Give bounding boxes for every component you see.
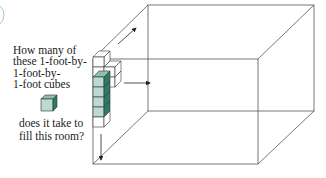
question-line: does it take to xyxy=(19,117,99,130)
arrow-depth-icon xyxy=(118,28,136,44)
question-line: 1-foot cubes xyxy=(13,79,93,90)
question-line: fill this room? xyxy=(19,130,99,143)
section-marker-icon xyxy=(0,3,4,27)
figure: How many of these 1-foot-by- 1-foot-by- … xyxy=(0,0,326,178)
question-text-top: How many of these 1-foot-by- 1-foot-by- … xyxy=(13,45,93,90)
question-line: these 1-foot-by- xyxy=(13,56,93,67)
question-text-bottom: does it take to fill this room? xyxy=(19,117,99,142)
cube-icon xyxy=(41,95,57,111)
cube-stack xyxy=(93,51,121,127)
room-box xyxy=(93,5,314,164)
